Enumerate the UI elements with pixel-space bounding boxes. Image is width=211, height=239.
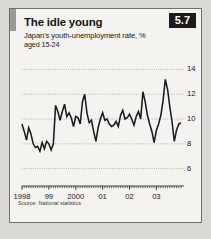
x-axis-tick-label: 03 bbox=[140, 192, 172, 201]
chart-figure-panel: 5.7 The idle young Japan's youth-unemplo… bbox=[9, 8, 202, 223]
y-axis-tick-label: 8 bbox=[187, 139, 191, 148]
axis-labels-layer: 681012141998992000010203 bbox=[10, 9, 203, 224]
y-axis-tick-label: 12 bbox=[187, 89, 195, 98]
y-axis-tick-label: 14 bbox=[187, 64, 195, 73]
source-note: Source: National statistics bbox=[18, 200, 81, 206]
y-axis-tick-label: 10 bbox=[187, 114, 195, 123]
y-axis-tick-label: 6 bbox=[187, 164, 191, 173]
